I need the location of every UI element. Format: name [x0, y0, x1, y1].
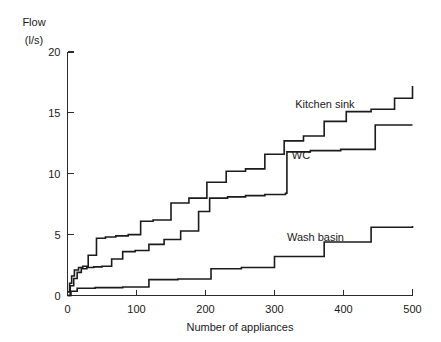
series-label-kitchen-sink: Kitchen sink: [295, 98, 355, 110]
y-tick-label: 10: [48, 168, 60, 180]
y-axis-title-group: Flow (l/s): [22, 16, 45, 46]
x-tick-label: 0: [64, 303, 70, 315]
chart-canvas: Flow (l/s) 05101520 0100200300400500 Kit…: [0, 0, 441, 342]
flow-vs-appliances-chart: Flow (l/s) 05101520 0100200300400500 Kit…: [0, 0, 441, 342]
x-axis-ticks: 0100200300400500: [64, 290, 421, 315]
series-paths-group: [68, 86, 413, 295]
x-axis-title: Number of appliances: [186, 321, 294, 333]
series-label-wc: WC: [292, 149, 310, 161]
x-tick-label: 200: [196, 303, 214, 315]
y-axis-title-line2: (l/s): [25, 34, 43, 46]
x-tick-label: 300: [265, 303, 283, 315]
x-tick-label: 500: [403, 303, 421, 315]
y-tick-label: 0: [54, 290, 60, 302]
y-tick-label: 15: [48, 107, 60, 119]
series-line-kitchen-sink: [68, 86, 413, 292]
series-annotations-group: Kitchen sinkWCWash basin: [287, 98, 355, 243]
x-tick-label: 100: [127, 303, 145, 315]
series-label-wash-basin: Wash basin: [287, 231, 344, 243]
y-tick-label: 5: [54, 229, 60, 241]
y-tick-label: 20: [48, 46, 60, 58]
y-axis-title-line1: Flow: [22, 16, 45, 28]
y-axis-ticks: 05101520: [48, 46, 73, 302]
series-line-wc: [68, 125, 413, 295]
x-tick-label: 400: [334, 303, 352, 315]
